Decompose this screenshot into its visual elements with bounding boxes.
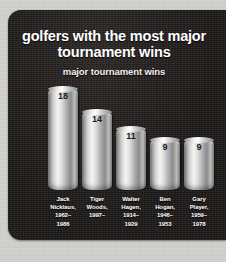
bar-value-label: 18 <box>48 91 78 101</box>
bar-category-label-line: 1959– <box>182 211 216 219</box>
bar-category-label-line: 1962– <box>46 211 80 219</box>
bar-value-label: 14 <box>82 114 112 124</box>
chart-frame: golfers with the most major tournament w… <box>0 0 226 262</box>
bar-value-label: 11 <box>116 131 146 141</box>
bar-slot: 9 <box>150 88 180 190</box>
bar-slot: 18 <box>48 88 78 190</box>
bar-category-label-line: Walter <box>114 195 148 203</box>
bar-plot-area: 18141199 <box>40 88 215 190</box>
bar-category-label-line: Player, <box>182 203 216 211</box>
bar-category-label-line: Woods, <box>80 203 114 211</box>
bar-category-label-line: Jack <box>46 195 80 203</box>
bar-category-label: JackNicklaus,1962–1986 <box>46 195 80 228</box>
bar-value-label: 9 <box>150 142 180 152</box>
bar-category-label-line: 1978 <box>182 220 216 228</box>
bar-value-label: 9 <box>184 142 214 152</box>
bar-category-label-line: Gary <box>182 195 216 203</box>
bar-category-label: WalterHagen,1914–1929 <box>114 195 148 228</box>
bar-category-label-line: 1929 <box>114 220 148 228</box>
bar-category-label: TigerWoods,1997– <box>80 195 114 220</box>
bar-category-label-line: 1997– <box>80 211 114 219</box>
bar-category-label-line: 1914– <box>114 211 148 219</box>
bar-category-label-line: Hagen, <box>114 203 148 211</box>
bar-category-label-line: Ben <box>148 195 182 203</box>
bar-category-label-line: 1946– <box>148 211 182 219</box>
chart-subtitle: major tournament wins <box>16 66 212 77</box>
bar-category-label-line: Nicklaus, <box>46 203 80 211</box>
bar-category-label-line: 1986 <box>46 220 80 228</box>
bar-slot: 9 <box>184 88 214 190</box>
category-axis-labels: JackNicklaus,1962–1986TigerWoods,1997–Wa… <box>38 195 218 240</box>
bar-slot: 14 <box>82 88 112 190</box>
bar-category-label-line: Hogan, <box>148 203 182 211</box>
chart-panel: golfers with the most major tournament w… <box>8 10 226 240</box>
bar-category-label-line: 1953 <box>148 220 182 228</box>
bar-category-label: BenHogan,1946–1953 <box>148 195 182 228</box>
bar[interactable] <box>48 88 78 190</box>
chart-title: golfers with the most major tournament w… <box>16 28 212 60</box>
bar-slot: 11 <box>116 88 146 190</box>
bar-category-label-line: Tiger <box>80 195 114 203</box>
bar-category-label: GaryPlayer,1959–1978 <box>182 195 216 228</box>
